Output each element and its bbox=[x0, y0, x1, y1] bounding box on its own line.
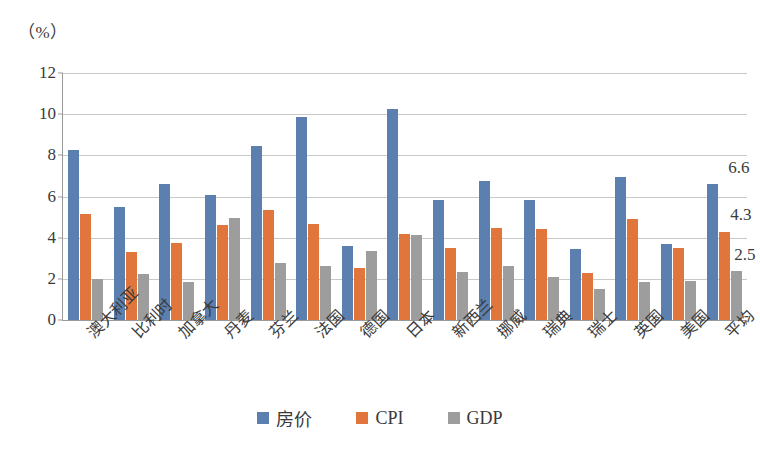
bar-group bbox=[610, 73, 656, 320]
bar-cpi bbox=[719, 232, 730, 321]
bar-房价 bbox=[251, 146, 262, 320]
bar-group bbox=[701, 73, 747, 320]
y-axis-tick-label: 12 bbox=[39, 63, 56, 83]
y-axis-tick-label: 4 bbox=[48, 228, 57, 248]
bar-group bbox=[565, 73, 611, 320]
bar-chart: （%） 024681012 6.64.32.5 澳大利亚比利时加拿大丹麦芬兰法国… bbox=[0, 0, 760, 452]
value-label: 2.5 bbox=[734, 245, 755, 265]
x-axis-labels: 澳大利亚比利时加拿大丹麦芬兰法国德国日本新西兰挪威瑞典瑞士英国美国平均 bbox=[62, 322, 746, 397]
legend-swatch-icon bbox=[356, 412, 368, 424]
bar-group bbox=[245, 73, 291, 320]
value-label: 6.6 bbox=[728, 158, 749, 178]
bar-房价 bbox=[707, 184, 718, 320]
plot-area: 024681012 6.64.32.5 bbox=[62, 73, 747, 321]
y-axis-tick-label: 6 bbox=[48, 187, 57, 207]
chart-legend: 房价CPIGDP bbox=[0, 405, 760, 431]
bar-cpi bbox=[536, 229, 547, 320]
legend-swatch-icon bbox=[448, 412, 460, 424]
bar-房价 bbox=[68, 150, 79, 320]
bar-房价 bbox=[524, 200, 535, 320]
bar-cpi bbox=[673, 248, 684, 320]
bar-group bbox=[473, 73, 519, 320]
bar-房价 bbox=[433, 200, 444, 320]
bar-group bbox=[109, 73, 155, 320]
bar-cpi bbox=[399, 234, 410, 320]
y-axis-unit-label: （%） bbox=[18, 18, 68, 43]
legend-label: GDP bbox=[467, 408, 503, 429]
bar-group bbox=[291, 73, 337, 320]
bar-房价 bbox=[570, 249, 581, 320]
legend-label: CPI bbox=[375, 408, 403, 429]
legend-item[interactable]: 房价 bbox=[257, 405, 312, 431]
bar-cpi bbox=[582, 273, 593, 320]
value-label: 4.3 bbox=[730, 205, 751, 225]
bar-cpi bbox=[354, 268, 365, 320]
bar-cpi bbox=[445, 248, 456, 320]
bar-group bbox=[382, 73, 428, 320]
bar-cpi bbox=[308, 224, 319, 320]
bar-group bbox=[337, 73, 383, 320]
bar-cpi bbox=[627, 219, 638, 320]
bar-cpi bbox=[263, 210, 274, 320]
y-axis-tick-label: 10 bbox=[39, 104, 56, 124]
y-axis-tick-label: 2 bbox=[48, 269, 57, 289]
bar-房价 bbox=[387, 109, 398, 320]
legend-label: 房价 bbox=[276, 405, 312, 431]
bar-cpi bbox=[80, 214, 91, 320]
bars-layer bbox=[63, 73, 747, 320]
bar-房价 bbox=[615, 177, 626, 320]
legend-item[interactable]: CPI bbox=[356, 408, 403, 429]
legend-swatch-icon bbox=[257, 412, 269, 424]
legend-item[interactable]: GDP bbox=[448, 408, 503, 429]
bar-房价 bbox=[296, 117, 307, 320]
bar-group bbox=[154, 73, 200, 320]
bar-group bbox=[428, 73, 474, 320]
bar-group bbox=[656, 73, 702, 320]
bar-房价 bbox=[342, 246, 353, 320]
bar-房价 bbox=[661, 244, 672, 320]
y-axis-tick-label: 0 bbox=[48, 310, 57, 330]
bar-group bbox=[519, 73, 565, 320]
y-axis-tick-label: 8 bbox=[48, 145, 57, 165]
bar-group bbox=[63, 73, 109, 320]
bar-group bbox=[200, 73, 246, 320]
